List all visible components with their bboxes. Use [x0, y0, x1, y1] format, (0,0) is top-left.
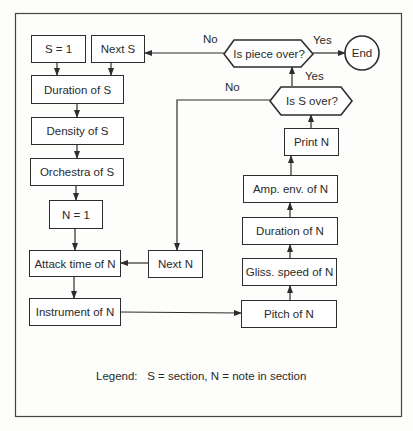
node-label: Gliss. speed of N [246, 266, 334, 278]
gliss-speed-of-n-box: Gliss. speed of N [242, 258, 337, 286]
piece-yes-label: Yes [313, 34, 332, 46]
piece-no-label: No [203, 33, 218, 45]
is-piece-over-label: Is piece over? [226, 40, 312, 67]
node-label: Density of S [47, 125, 109, 137]
attack-time-of-n-box: Attack time of N [29, 250, 121, 277]
s-equals-1-box: S = 1 [31, 35, 86, 63]
node-label: Amp. env. of N [253, 183, 328, 195]
node-label: Attack time of N [34, 258, 115, 270]
node-label: S = 1 [45, 43, 72, 55]
node-label: Pitch of N [264, 308, 314, 320]
print-n-box: Print N [284, 128, 339, 156]
n-equals-1-box: N = 1 [49, 200, 103, 229]
legend: Legend: S = section, N = note in section [96, 370, 306, 382]
duration-of-s-box: Duration of S [31, 75, 124, 104]
amp-env-of-n-box: Amp. env. of N [243, 175, 338, 203]
flowchart-canvas: S = 1 Next S Duration of S Density of S … [0, 0, 413, 431]
node-label: Instrument of N [36, 306, 115, 318]
duration-of-n-box: Duration of N [242, 217, 338, 245]
node-label: N = 1 [62, 209, 90, 221]
node-label: Next N [158, 258, 193, 270]
end-label: End [345, 36, 379, 70]
node-label: Duration of S [44, 84, 111, 96]
node-label: Print N [294, 136, 329, 148]
next-s-box: Next S [91, 35, 145, 63]
s-yes-label: Yes [305, 70, 324, 82]
density-of-s-box: Density of S [31, 117, 124, 145]
orchestra-of-s-box: Orchestra of S [30, 158, 124, 186]
node-label: Orchestra of S [40, 166, 114, 178]
s-no-label: No [225, 81, 240, 93]
node-label: Next S [101, 43, 136, 55]
instrument-of-n-box: Instrument of N [29, 298, 121, 326]
node-label: Duration of N [256, 225, 324, 237]
is-s-over-label: Is S over? [272, 87, 352, 115]
pitch-of-n-box: Pitch of N [241, 300, 337, 328]
next-n-box: Next N [148, 250, 203, 278]
